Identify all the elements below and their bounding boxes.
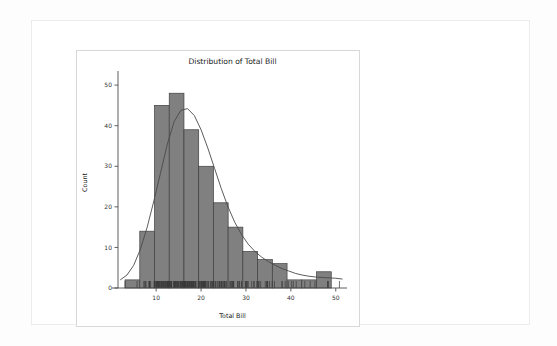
x-tick-label: 30 xyxy=(242,294,250,301)
y-tick-label: 50 xyxy=(104,81,112,88)
y-axis-ticks: 01020304050 xyxy=(104,81,118,291)
plot-output-card: Distribution of Total Bill10203040500102… xyxy=(31,20,530,325)
y-tick-label: 10 xyxy=(104,244,112,251)
x-tick-label: 50 xyxy=(332,294,340,301)
histogram-bar xyxy=(317,272,332,288)
histogram-bar xyxy=(213,203,228,288)
y-tick-label: 0 xyxy=(108,284,112,291)
histogram-bar xyxy=(184,130,199,288)
y-axis-label: Count xyxy=(81,173,89,192)
histogram-bar xyxy=(140,231,155,288)
histogram-bar xyxy=(155,105,170,288)
histogram-bar xyxy=(169,93,184,288)
figure-canvas: Distribution of Total Bill10203040500102… xyxy=(77,51,359,326)
histogram-bar xyxy=(228,227,243,288)
y-tick-label: 30 xyxy=(104,162,112,169)
histogram-bar xyxy=(199,166,214,288)
x-axis-ticks: 1020304050 xyxy=(152,288,339,301)
y-tick-label: 20 xyxy=(104,203,112,210)
chart-title: Distribution of Total Bill xyxy=(188,57,276,66)
x-tick-label: 40 xyxy=(287,294,295,301)
histogram-plot: Distribution of Total Bill10203040500102… xyxy=(77,51,359,326)
y-tick-label: 40 xyxy=(104,122,112,129)
x-tick-label: 10 xyxy=(152,294,160,301)
x-axis-label: Total Bill xyxy=(218,312,246,320)
histogram-bar xyxy=(287,280,302,288)
histogram-bar xyxy=(125,280,140,288)
x-tick-label: 20 xyxy=(197,294,205,301)
matplotlib-figure: Distribution of Total Bill10203040500102… xyxy=(76,50,360,327)
histogram-bar xyxy=(302,280,317,288)
